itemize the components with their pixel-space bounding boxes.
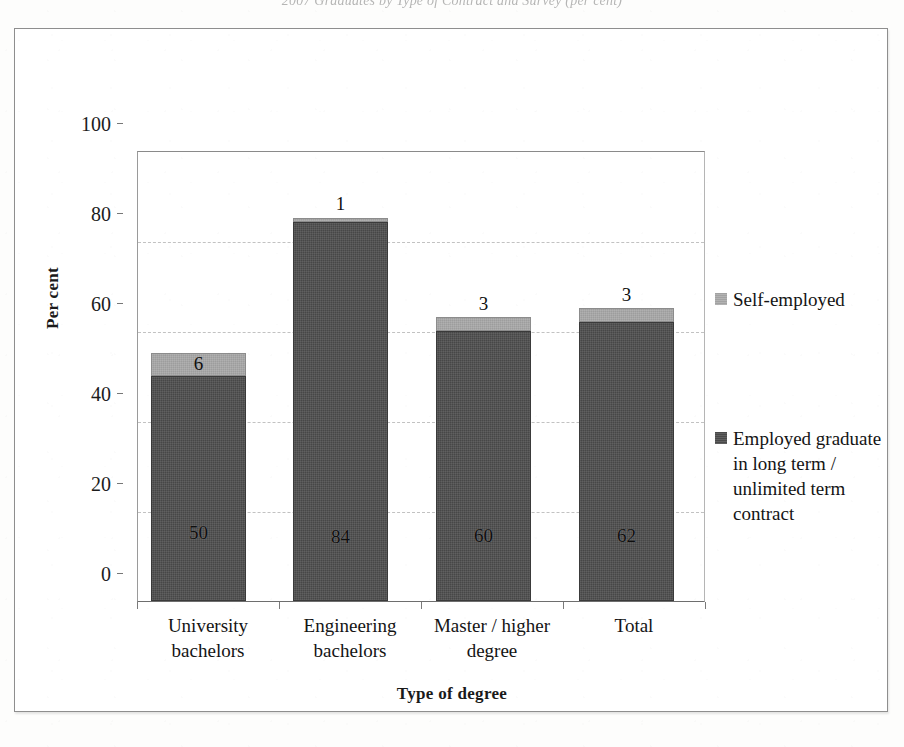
x-tick-mark-2 <box>421 602 422 609</box>
bar-group-total[interactable]: 62 3 <box>579 308 674 601</box>
y-tick-mark-60 <box>117 303 123 304</box>
x-tick-mark-1 <box>279 602 280 609</box>
legend-item-employed-graduate[interactable]: Employed graduate in long term / unlimit… <box>715 426 895 526</box>
bar-value-self-employed: 6 <box>152 353 245 375</box>
bar-segment-employed[interactable]: 84 <box>293 222 388 601</box>
bar-segment-self-employed[interactable] <box>436 317 531 331</box>
x-category-line2: bachelors <box>137 638 279 663</box>
y-tick-label-0: 0 <box>101 563 111 586</box>
x-tick-mark-3 <box>563 602 564 609</box>
x-category-line1: Master / higher <box>419 613 565 638</box>
y-tick-label-40: 40 <box>91 383 111 406</box>
bar-value-self-employed: 1 <box>293 193 388 215</box>
legend-label-employed-graduate: Employed graduate in long term / unlimit… <box>733 426 895 526</box>
x-category-label-total: Total <box>563 613 705 638</box>
y-tick-label-20: 20 <box>91 473 111 496</box>
x-category-label-university-bachelors: University bachelors <box>137 613 279 663</box>
scanned-page: 2007 Graduates by Type of Contract and S… <box>0 0 904 747</box>
y-tick-mark-100 <box>117 123 123 124</box>
y-tick-mark-20 <box>117 483 123 484</box>
legend-swatch-self-employed-icon <box>715 293 727 305</box>
x-category-label-engineering-bachelors: Engineering bachelors <box>279 613 421 663</box>
x-tick-mark-4 <box>705 602 706 609</box>
bar-group-master-higher-degree[interactable]: 60 3 <box>436 317 531 601</box>
bar-value-employed: 50 <box>152 522 245 544</box>
legend-label-self-employed: Self-employed <box>733 287 845 312</box>
bar-segment-employed[interactable]: 50 <box>151 376 246 601</box>
bar-value-employed: 84 <box>294 526 387 548</box>
y-tick-mark-0 <box>117 573 123 574</box>
bar-segment-self-employed[interactable] <box>293 218 388 222</box>
x-category-label-master-higher-degree: Master / higher degree <box>419 613 565 663</box>
x-category-line2: degree <box>419 638 565 663</box>
x-category-line1: University <box>137 613 279 638</box>
bar-value-self-employed: 3 <box>436 293 531 315</box>
x-category-line1: Engineering <box>279 613 421 638</box>
y-axis-title: Per cent <box>43 267 63 329</box>
figure-frame: Per cent 100 80 60 40 20 0 50 <box>14 28 888 712</box>
x-axis-title: Type of degree <box>15 684 889 704</box>
legend-item-self-employed[interactable]: Self-employed <box>715 287 845 312</box>
y-tick-label-100: 100 <box>81 113 111 136</box>
bar-group-university-bachelors[interactable]: 50 6 <box>151 353 246 601</box>
bar-segment-self-employed[interactable]: 6 <box>151 353 246 376</box>
bar-segment-self-employed[interactable] <box>579 308 674 322</box>
figure-title: 2007 Graduates by Type of Contract and S… <box>0 0 904 9</box>
bar-value-employed: 62 <box>580 525 673 547</box>
y-tick-mark-40 <box>117 393 123 394</box>
x-category-line1: Total <box>563 613 705 638</box>
legend-swatch-employed-graduate-icon <box>715 432 727 444</box>
gridline-80 <box>138 242 704 243</box>
y-tick-label-80: 80 <box>91 203 111 226</box>
bar-value-employed: 60 <box>437 525 530 547</box>
plot-area: 50 6 84 1 60 3 <box>137 151 705 602</box>
y-tick-mark-80 <box>117 213 123 214</box>
bar-segment-employed[interactable]: 60 <box>436 331 531 601</box>
bar-value-self-employed: 3 <box>579 284 674 306</box>
bar-group-engineering-bachelors[interactable]: 84 1 <box>293 218 388 601</box>
y-tick-label-60: 60 <box>91 293 111 316</box>
x-tick-mark-0 <box>137 602 138 609</box>
bar-segment-employed[interactable]: 62 <box>579 322 674 601</box>
x-category-line2: bachelors <box>279 638 421 663</box>
